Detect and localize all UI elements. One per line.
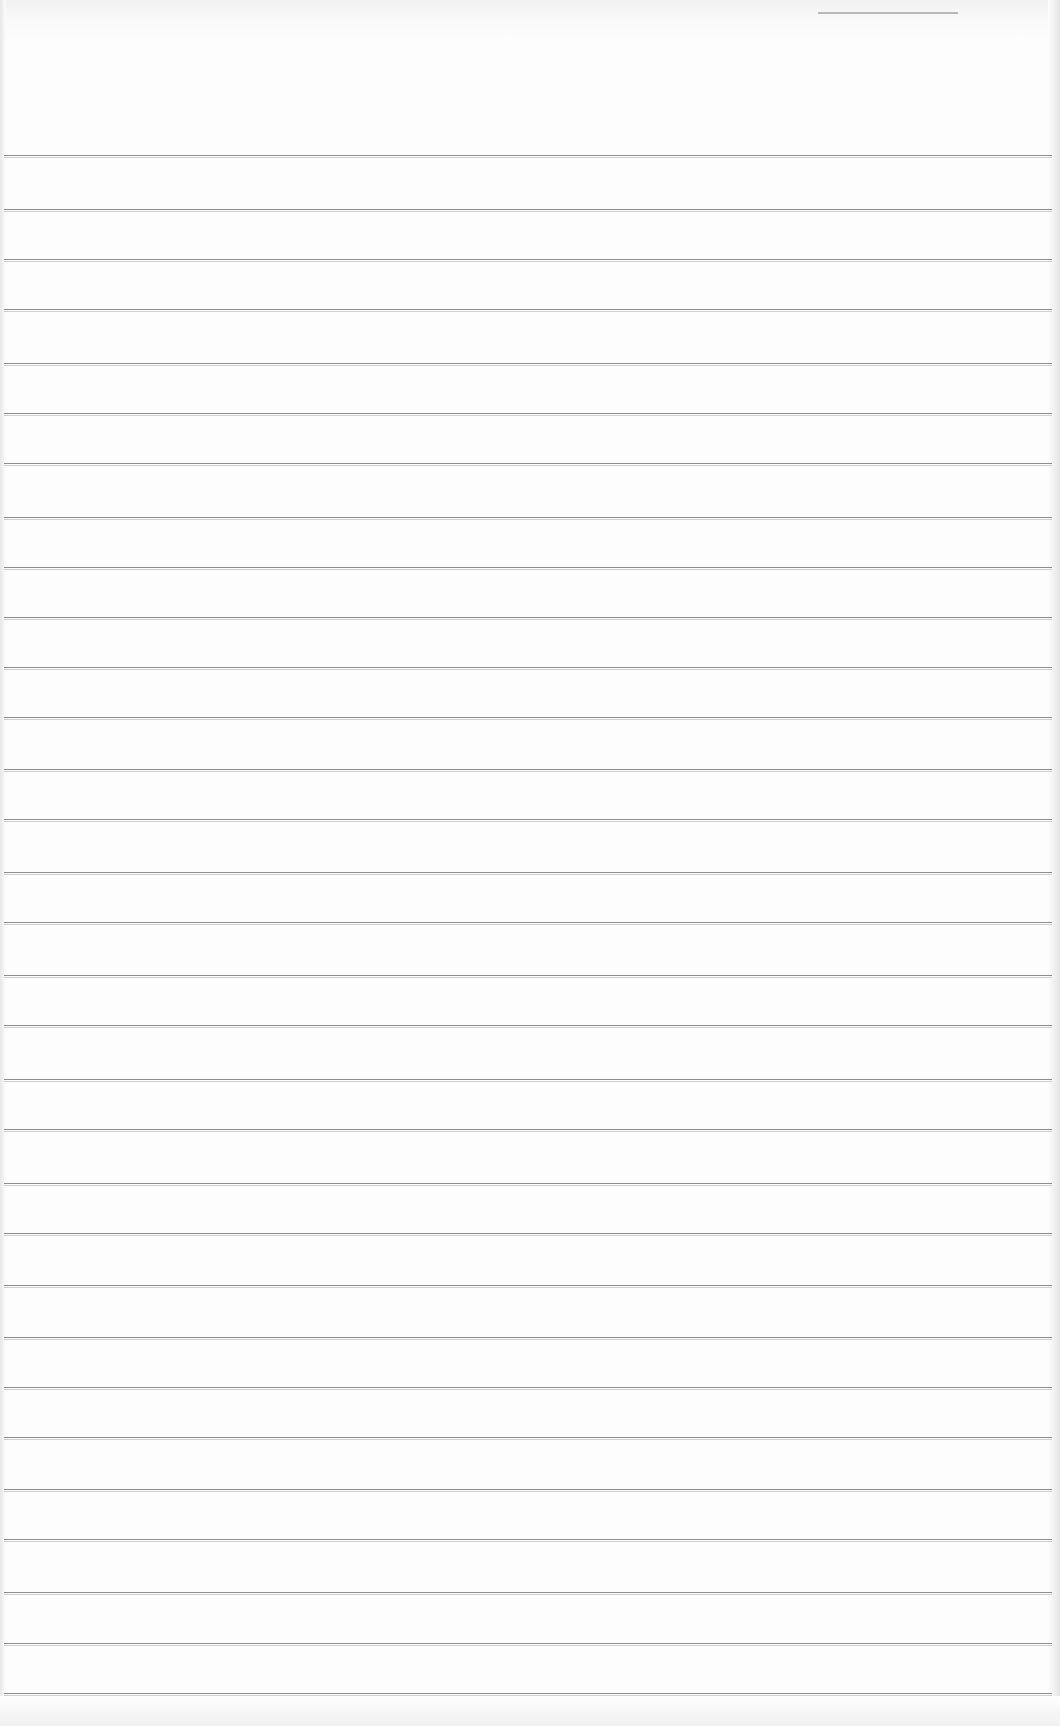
ruled-line: [4, 975, 1052, 978]
ruled-line: [4, 1025, 1052, 1028]
top-edge-mark: [818, 12, 958, 14]
top-bleed-through-texture: [0, 0, 1060, 40]
ruled-line: [4, 517, 1052, 520]
ruled-line: [4, 1233, 1052, 1236]
ruled-line: [4, 717, 1052, 720]
ruled-line: [4, 463, 1052, 466]
ruled-line: [4, 209, 1052, 212]
ruled-line: [4, 819, 1052, 822]
bottom-bleed-texture: [0, 1696, 1060, 1726]
ruled-line: [4, 1643, 1052, 1646]
ruled-line: [4, 413, 1052, 416]
ruled-line: [4, 1079, 1052, 1082]
ruled-line: [4, 1693, 1052, 1696]
ruled-line: [4, 1129, 1052, 1132]
ruled-line: [4, 872, 1052, 875]
ruled-line: [4, 1539, 1052, 1542]
ruled-line: [4, 259, 1052, 262]
ruled-line: [4, 617, 1052, 620]
ruled-line: [4, 667, 1052, 670]
ruled-line: [4, 1183, 1052, 1186]
ruled-line: [4, 1437, 1052, 1440]
ruled-line: [4, 1387, 1052, 1390]
ruled-line: [4, 1489, 1052, 1492]
ruled-line: [4, 769, 1052, 772]
ruled-line: [4, 1337, 1052, 1340]
ruled-line: [4, 363, 1052, 366]
ruled-line: [4, 922, 1052, 925]
ruled-line: [4, 567, 1052, 570]
ruled-line: [4, 1592, 1052, 1595]
ruled-line: [4, 1285, 1052, 1288]
ruled-paper-page: [0, 0, 1060, 1726]
ruled-line: [4, 309, 1052, 312]
ruled-line: [4, 155, 1052, 158]
